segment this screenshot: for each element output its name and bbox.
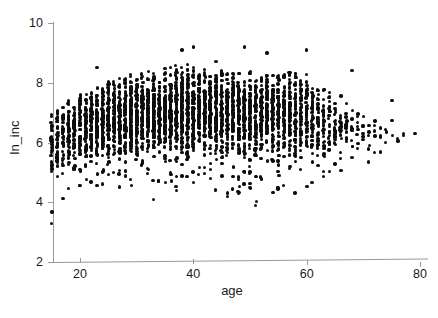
data-point — [197, 82, 200, 85]
data-point — [299, 106, 302, 109]
data-point — [192, 181, 195, 184]
data-point — [61, 129, 64, 132]
data-point — [334, 143, 337, 146]
data-point — [327, 96, 330, 99]
data-point — [282, 130, 285, 133]
data-point — [254, 154, 257, 157]
data-point — [322, 175, 325, 178]
data-point — [225, 73, 228, 76]
data-point — [55, 153, 58, 156]
data-point — [175, 127, 178, 130]
data-point — [146, 106, 149, 109]
data-point — [192, 69, 195, 72]
data-point — [168, 159, 171, 162]
data-point — [101, 87, 104, 90]
data-point — [373, 134, 376, 137]
data-point — [317, 133, 320, 136]
data-point — [259, 101, 262, 104]
data-point — [288, 91, 291, 94]
data-point — [260, 144, 263, 147]
data-point — [373, 151, 376, 154]
data-point — [226, 123, 229, 126]
data-point — [243, 45, 246, 48]
data-point — [79, 128, 82, 131]
data-point — [231, 146, 234, 149]
data-point — [271, 149, 274, 152]
data-point — [328, 170, 331, 173]
data-point — [328, 100, 331, 103]
data-point — [317, 111, 320, 114]
data-point — [141, 145, 144, 148]
data-point — [146, 150, 149, 153]
data-point — [276, 76, 279, 79]
data-point — [187, 119, 190, 122]
data-point — [117, 172, 120, 175]
data-point — [198, 79, 201, 82]
data-point — [85, 93, 88, 96]
data-point — [186, 98, 189, 101]
data-point — [135, 150, 138, 153]
data-point — [180, 145, 183, 148]
data-point — [79, 96, 82, 99]
data-point — [124, 160, 127, 163]
data-point — [158, 81, 161, 84]
data-point — [180, 126, 183, 129]
data-point — [248, 182, 251, 185]
data-point — [67, 149, 70, 152]
data-point — [242, 170, 245, 173]
data-point — [129, 147, 132, 150]
data-point — [67, 137, 70, 140]
data-point — [271, 129, 274, 132]
data-point — [316, 102, 319, 105]
data-point — [311, 152, 314, 155]
data-point — [236, 104, 239, 107]
data-point — [237, 147, 240, 150]
data-point — [163, 85, 166, 88]
data-point — [89, 154, 92, 157]
data-point — [333, 113, 336, 116]
data-point — [253, 147, 256, 150]
data-point — [333, 107, 336, 110]
data-point — [310, 123, 313, 126]
data-point — [95, 150, 98, 153]
data-point — [367, 130, 370, 133]
data-point — [272, 88, 275, 91]
data-point — [192, 73, 195, 76]
data-point — [180, 174, 183, 177]
data-point — [72, 168, 75, 171]
data-point — [191, 127, 194, 130]
data-point — [333, 129, 336, 132]
data-point — [186, 155, 189, 158]
data-point — [191, 132, 194, 135]
data-point — [67, 143, 70, 146]
data-point — [271, 159, 274, 162]
data-point — [248, 79, 251, 82]
data-point — [67, 110, 70, 113]
data-point — [186, 90, 189, 93]
data-point — [209, 113, 212, 116]
data-point — [310, 134, 313, 137]
data-point — [373, 129, 376, 132]
data-point — [367, 134, 370, 137]
data-point — [95, 137, 98, 140]
data-point — [123, 78, 126, 81]
data-point — [322, 114, 325, 117]
data-point — [226, 129, 229, 132]
data-point — [90, 113, 93, 116]
data-point — [208, 86, 211, 89]
data-point — [293, 114, 296, 117]
data-point — [237, 137, 240, 140]
data-point — [163, 145, 166, 148]
data-point — [198, 166, 201, 169]
data-point — [396, 139, 399, 142]
data-point — [277, 144, 280, 147]
data-point — [163, 98, 166, 101]
data-point — [124, 85, 127, 88]
data-point — [226, 138, 229, 141]
data-point — [305, 84, 308, 87]
data-point — [248, 172, 251, 175]
data-point — [123, 112, 126, 115]
data-point — [163, 120, 166, 123]
data-point — [106, 145, 109, 148]
data-point — [55, 120, 58, 123]
